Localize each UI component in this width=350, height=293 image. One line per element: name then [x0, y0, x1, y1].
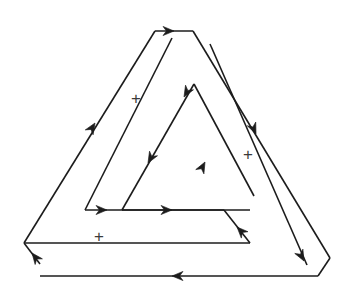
plus-bottom-face: + — [94, 228, 104, 245]
arrow-inner-left-down — [144, 151, 157, 165]
arrow-inner-right-up — [196, 160, 209, 174]
outer-left-edge — [24, 31, 155, 243]
inner-right-lower-edge — [224, 210, 250, 243]
plus-left-face: + — [131, 90, 141, 107]
penrose-triangle-canvas — [0, 0, 350, 293]
band-right-inner-edge — [210, 44, 307, 265]
outer-right-edge — [193, 31, 330, 258]
inner-triangle-group — [122, 84, 254, 243]
penrose-triangle-figure: +++ — [0, 0, 350, 293]
band-inner-outline-group — [24, 38, 307, 265]
inner-triangle-right-edge — [194, 84, 254, 196]
outer-outline-group — [24, 31, 330, 276]
notch-right-edge — [318, 258, 330, 276]
plus-right-face: + — [243, 146, 253, 163]
arrow-outer-left-up — [85, 121, 99, 135]
